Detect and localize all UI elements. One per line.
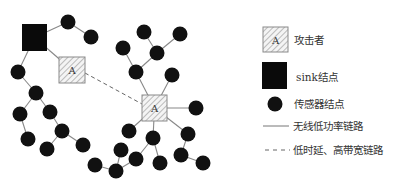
legend: A [262, 27, 290, 150]
sensor-node [189, 101, 204, 116]
sensor-node [165, 68, 180, 83]
svg-text:A: A [150, 103, 159, 114]
sensor-node [13, 107, 28, 122]
sensor-node [150, 46, 165, 61]
sensor-node [29, 86, 44, 101]
sensor-node [181, 127, 196, 142]
legend-low-latency-high-bandwidth-link-label: 低时延、高带宽链路 [293, 144, 383, 156]
sensor-node [116, 41, 131, 56]
svg-text:A: A [67, 65, 76, 76]
sensor-node [11, 65, 26, 80]
legend-sink-label: sink结点 [296, 71, 338, 83]
sensor-node [40, 142, 55, 157]
legend-wireless-low-power-link-label: 无线低功率链路 [293, 120, 363, 132]
legend-sink-symbol [262, 62, 287, 89]
legend-attacker-label: 攻击者 [294, 34, 324, 46]
sensor-node [174, 148, 189, 163]
sensor-node [84, 30, 99, 45]
sensor-node [129, 152, 144, 167]
legend-sensor-label: 传感器结点 [294, 98, 344, 110]
sensor-node [88, 158, 103, 173]
sensor-node [61, 15, 76, 30]
sink-node [22, 24, 47, 51]
sensor-node [76, 138, 91, 153]
sensor-node [173, 27, 188, 42]
sensor-node [43, 105, 58, 120]
legend-sensor-symbol [268, 97, 283, 112]
sensor-node [146, 131, 161, 146]
sensor-node [196, 156, 211, 171]
legend-attacker-symbol: A [263, 27, 288, 52]
sensor-node [114, 143, 129, 158]
attacker-node: A [142, 95, 167, 121]
sensor-node [137, 25, 152, 40]
sensor-node [129, 65, 144, 80]
sensor-node [109, 164, 124, 179]
sensor-node [122, 124, 137, 139]
nodes-layer: AA [11, 15, 211, 179]
sensor-node [55, 124, 70, 139]
svg-text:A: A [271, 35, 280, 46]
attacker-node: A [59, 57, 85, 83]
sensor-node [153, 156, 168, 171]
sensor-node [21, 132, 36, 147]
